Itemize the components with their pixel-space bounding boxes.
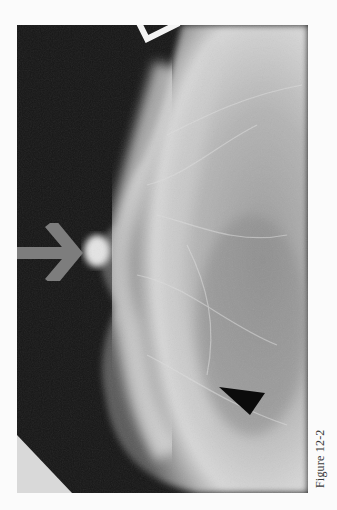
- chevron-marker-icon: [135, 25, 187, 43]
- arrowhead-marker-icon: [217, 385, 267, 419]
- document-page: Figure 12-2: [0, 0, 337, 510]
- arrow-marker-icon: [17, 223, 85, 281]
- mammogram-image: [17, 25, 308, 493]
- figure-caption: Figure 12-2: [313, 429, 328, 488]
